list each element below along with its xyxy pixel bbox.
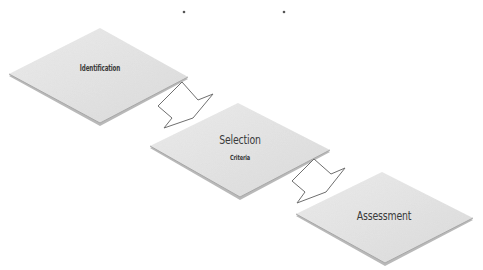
- decorative-dot: [283, 11, 286, 14]
- step-title-selection: Selection: [219, 133, 261, 146]
- step-title-identification: Identification: [80, 65, 120, 73]
- decorative-dot: [183, 11, 186, 14]
- step-identification: [9, 28, 188, 126]
- step-subtitle-criteria: Criteria: [230, 155, 250, 162]
- step-title-assessment: Assessment: [357, 209, 412, 222]
- process-diagram: Identification Selection Criteria Assess…: [0, 0, 483, 270]
